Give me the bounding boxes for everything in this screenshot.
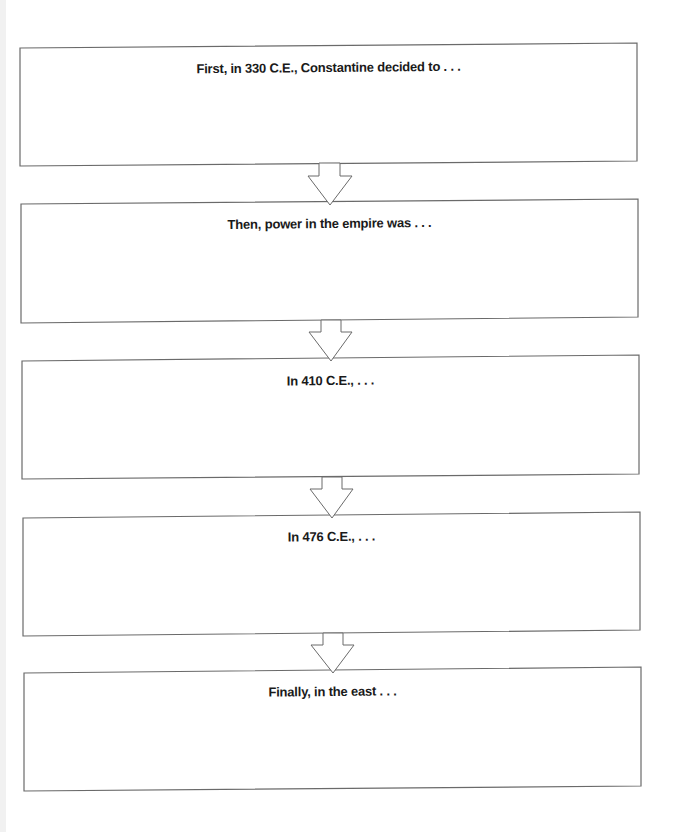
flowchart-canvas	[0, 0, 675, 832]
down-arrow-icon	[310, 477, 353, 518]
down-arrow-icon	[311, 633, 354, 673]
down-arrow-icon	[308, 163, 352, 205]
down-arrow-icon	[309, 320, 352, 361]
